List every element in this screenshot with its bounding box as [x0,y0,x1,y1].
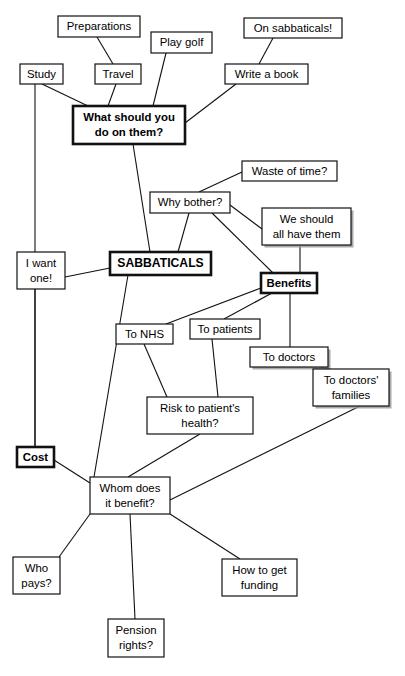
edge-to-nhs-to-risk-to-patients-health [144,344,167,397]
node-label-travel: Travel [102,68,133,80]
node-write-a-book[interactable]: Write a book [225,64,308,84]
node-label-how-to-get-funding-line1: How to get [232,564,287,576]
node-label-i-want-one-line2: one! [30,272,52,284]
node-label-preparations: Preparations [67,20,132,32]
node-label-risk-to-patients-health-line1: Risk to patient's [160,402,240,414]
node-label-what-should-you-do-line1: What should you [83,111,175,123]
node-label-who-pays-line1: Who [25,562,48,574]
node-to-doctors[interactable]: To doctors [250,347,331,370]
edge-why-bother-to-we-should-all-have-them [230,205,262,229]
node-on-sabbaticals[interactable]: On sabbaticals! [244,18,342,38]
edge-study-to-what-should-you-do [42,84,88,106]
node-i-want-one[interactable]: I wantone! [17,252,65,289]
edge-whom-does-it-benefit-to-pension-rights [130,514,135,619]
node-label-what-should-you-do-line2: do on them? [95,126,163,138]
edge-risk-to-patients-health-to-whom-does-it-benefit [128,434,200,477]
node-label-whom-does-it-benefit-line2: it benefit? [105,497,154,509]
node-who-pays[interactable]: Whopays? [13,557,60,594]
node-label-we-should-all-have-them-line2: all have them [273,228,341,240]
node-whom-does-it-benefit[interactable]: Whom doesit benefit? [90,477,170,514]
edge-sabbaticals-to-whom-does-it-benefit [94,275,128,477]
clipped-header-text [0,0,405,9]
node-to-nhs[interactable]: To NHS [116,324,173,344]
edge-whom-does-it-benefit-to-who-pays [59,514,90,557]
node-cost[interactable]: Cost [17,447,54,467]
edge-preparations-to-travel [97,37,113,64]
node-what-should-you-do[interactable]: What should youdo on them? [73,106,185,144]
node-label-to-nhs: To NHS [125,328,165,340]
edge-whom-does-it-benefit-to-how-to-get-funding [170,514,240,559]
node-preparations[interactable]: Preparations [58,16,140,37]
node-travel[interactable]: Travel [95,64,141,84]
node-label-waste-of-time: Waste of time? [252,165,328,177]
node-label-how-to-get-funding-line2: funding [241,579,278,591]
node-waste-of-time[interactable]: Waste of time? [242,161,337,181]
node-label-write-a-book: Write a book [235,68,299,80]
mind-map-svg: PreparationsStudyTravelPlay golfOn sabba… [0,0,405,676]
node-layer: PreparationsStudyTravelPlay golfOn sabba… [13,16,392,657]
node-how-to-get-funding[interactable]: How to getfunding [222,559,297,596]
node-label-play-golf: Play golf [160,36,205,48]
node-label-to-patients: To patients [197,323,252,335]
node-label-to-doctors-families-line1: To doctors' [324,374,379,386]
node-label-risk-to-patients-health-line2: health? [181,417,218,429]
node-sabbaticals[interactable]: SABBATICALS [110,252,211,275]
node-label-i-want-one-line1: I want [26,257,57,269]
node-risk-to-patients-health[interactable]: Risk to patient'shealth? [147,397,253,434]
edge-why-bother-to-sabbaticals [178,213,189,252]
node-benefits[interactable]: Benefits [261,273,317,293]
node-label-whom-does-it-benefit-line1: Whom does [100,482,161,494]
node-label-to-doctors: To doctors [263,351,316,363]
node-label-cost: Cost [23,451,49,463]
mind-map-canvas: PreparationsStudyTravelPlay golfOn sabba… [0,0,405,676]
node-play-golf[interactable]: Play golf [151,32,212,53]
edge-play-golf-to-what-should-you-do [153,53,166,106]
edge-cost-to-whom-does-it-benefit [54,460,90,483]
node-label-we-should-all-have-them-line1: We should [280,213,334,225]
edge-what-should-you-do-to-sabbaticals [133,144,150,252]
node-to-patients[interactable]: To patients [190,319,260,339]
edge-to-patients-to-risk-to-patients-health [212,339,218,397]
node-study[interactable]: Study [20,64,63,84]
edge-on-sabbaticals-to-write-a-book [259,38,273,64]
node-label-to-doctors-families-line2: families [332,389,371,401]
edge-write-a-book-to-what-should-you-do [185,84,236,123]
edge-travel-to-what-should-you-do [108,84,116,106]
node-label-study: Study [27,68,56,80]
edge-i-want-one-to-sabbaticals [65,268,110,277]
node-label-sabbaticals: SABBATICALS [117,256,203,270]
node-label-why-bother: Why bother? [158,196,223,208]
node-we-should-all-have-them[interactable]: We shouldall have them [262,208,354,248]
node-pension-rights[interactable]: Pensionrights? [108,619,164,657]
edge-benefits-to-to-patients [224,293,272,319]
node-label-benefits: Benefits [267,277,312,289]
node-label-who-pays-line2: pays? [21,577,51,589]
edge-waste-of-time-to-why-bother [199,172,242,192]
node-label-pension-rights-line1: Pension [115,624,156,636]
node-why-bother[interactable]: Why bother? [150,192,230,213]
node-to-doctors-families[interactable]: To doctors'families [313,369,392,409]
node-label-pension-rights-line2: rights? [119,639,153,651]
node-label-on-sabbaticals: On sabbaticals! [254,22,333,34]
